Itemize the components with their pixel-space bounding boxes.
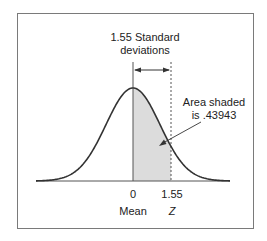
arrow-head-left-icon: [134, 68, 141, 73]
std-dev-caption: 1.55 Standard deviations: [100, 31, 190, 57]
axis-label-mean: Mean: [114, 205, 152, 218]
arrow-head-right-icon: [163, 68, 170, 73]
std-dev-caption-line2: deviations: [100, 44, 190, 57]
std-dev-caption-line1: 1.55 Standard: [100, 31, 190, 44]
area-pointer-arrow: [163, 122, 201, 143]
area-caption-line1: Area shaded: [178, 96, 250, 109]
area-caption-line2: is .43943: [178, 109, 250, 122]
area-caption: Area shaded is .43943: [178, 96, 250, 122]
axis-label-z: Z: [164, 205, 180, 218]
tick-label-z-value: 1.55: [160, 188, 184, 201]
tick-label-mean-value: 0: [127, 188, 139, 201]
